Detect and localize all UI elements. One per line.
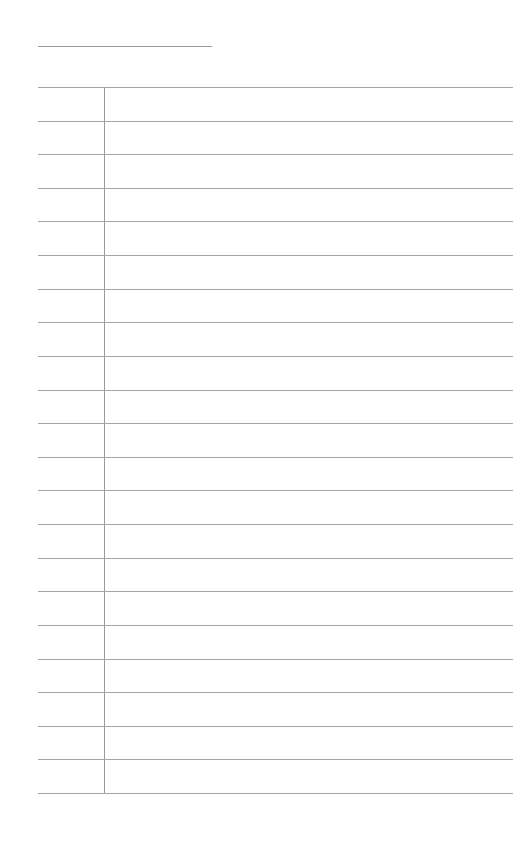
row-rule [38, 457, 513, 458]
row-rule [38, 625, 513, 626]
row-rule [38, 322, 513, 323]
row-rule [38, 255, 513, 256]
scan-gap [332, 592, 346, 595]
title-underline [38, 46, 212, 47]
row-rule [38, 591, 513, 592]
row-rule [38, 490, 513, 491]
column-divider [104, 87, 105, 793]
row-rule [38, 121, 513, 122]
row-rule [38, 356, 513, 357]
row-rule [38, 759, 513, 760]
ruled-table [38, 87, 513, 793]
row-rule [38, 692, 513, 693]
row-rule [38, 188, 513, 189]
row-rule [38, 793, 513, 794]
row-rule [38, 558, 513, 559]
row-rule [38, 390, 513, 391]
row-rule [38, 659, 513, 660]
row-rule [38, 289, 513, 290]
row-rule [38, 87, 513, 88]
row-rule [38, 524, 513, 525]
ruled-form-page [0, 0, 521, 862]
row-rule [38, 726, 513, 727]
row-rule [38, 423, 513, 424]
row-rule [38, 221, 513, 222]
row-rule [38, 154, 513, 155]
